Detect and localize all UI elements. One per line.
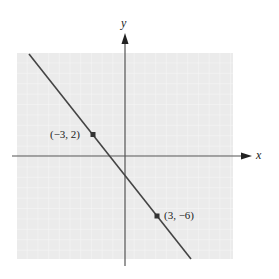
point-label-1: (−3, 2)	[50, 128, 80, 141]
point-label-2: (3, −6)	[164, 209, 194, 222]
coordinate-plane: x y (−3, 2) (3, −6)	[0, 0, 279, 279]
x-axis-arrow-icon	[241, 153, 252, 160]
x-axis-label: x	[255, 148, 262, 162]
y-axis-arrow-icon	[122, 33, 129, 44]
point-marker-2	[155, 214, 160, 219]
point-marker-1	[91, 132, 96, 137]
y-axis-label: y	[120, 16, 127, 30]
